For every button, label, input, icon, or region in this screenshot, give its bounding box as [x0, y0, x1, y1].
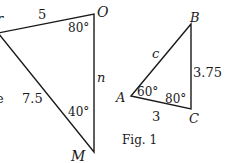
vertex-label-M: M — [71, 149, 85, 163]
vertex-label-A: A — [116, 91, 125, 104]
angle-label-M-40: 40° — [68, 106, 89, 118]
partial-vertex-label-top: r — [0, 12, 3, 25]
side-label-c: c — [152, 47, 159, 60]
side-label-3: 3 — [152, 110, 160, 123]
side-label-7-5: 7.5 — [22, 92, 43, 105]
angle-label-O-80: 80° — [68, 22, 89, 34]
vertex-label-O: O — [97, 5, 108, 19]
vertex-label-C: C — [189, 112, 199, 125]
partial-text-left: e — [0, 92, 4, 105]
side-label-n: n — [97, 71, 105, 84]
vertex-label-B: B — [190, 11, 200, 24]
side-label-top-5: 5 — [38, 8, 46, 21]
figure-caption: Fig. 1 — [122, 134, 157, 146]
side-label-3-75: 3.75 — [193, 66, 222, 79]
angle-label-A-60: 60° — [137, 86, 158, 98]
angle-label-C-80: 80° — [165, 93, 186, 105]
